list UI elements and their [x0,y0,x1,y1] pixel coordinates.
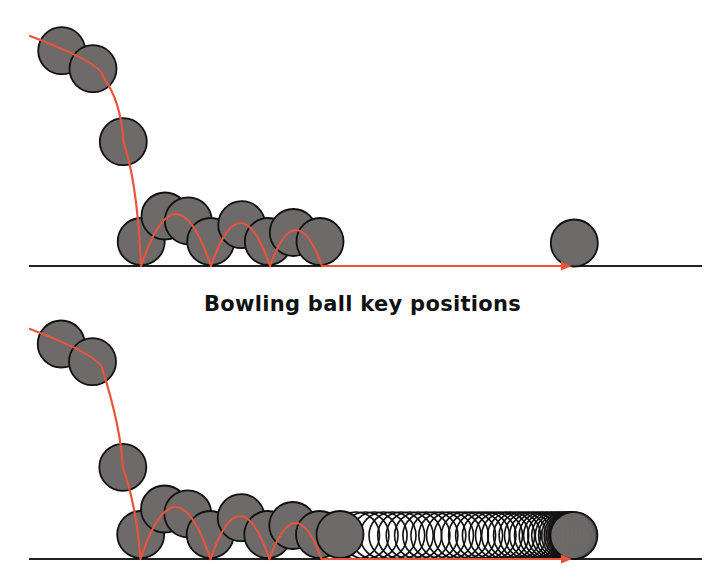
key-balls [38,27,598,266]
bowling-ball [551,220,598,267]
ball-frame [551,512,598,559]
bowling-ball [69,338,116,385]
bowling-ball [317,511,364,558]
rolling-frames [333,512,598,559]
all-positions-panel [29,321,702,564]
figure-caption: Bowling ball key positions [0,292,725,316]
key-positions-panel [29,27,702,270]
key-balls [38,321,364,559]
